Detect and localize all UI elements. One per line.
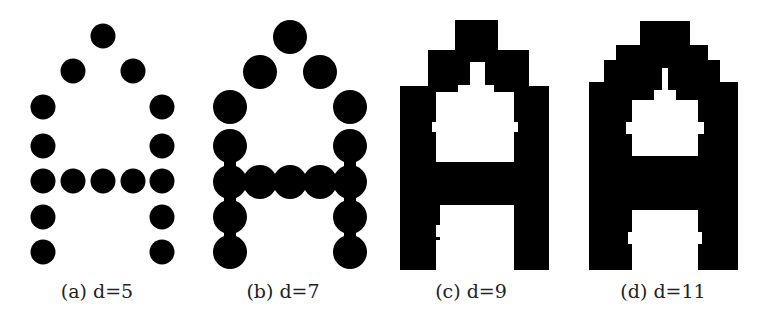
solid-letter-a-d9 [390, 0, 580, 322]
panel-d: (d) d=11 [580, 0, 772, 322]
caption-b: (b) d=7 [246, 280, 319, 302]
caption-a: (a) d=5 [61, 280, 133, 302]
dotted-letter-a-d5 [0, 0, 200, 322]
caption-d: (d) d=11 [620, 280, 705, 302]
panel-b: (b) d=7 [190, 0, 390, 322]
dotted-letter-a-d7 [190, 0, 390, 322]
panel-c: (c) d=9 [390, 0, 580, 322]
solid-letter-a-d11 [580, 0, 772, 322]
caption-c: (c) d=9 [435, 280, 507, 302]
panel-a: (a) d=5 [0, 0, 200, 322]
